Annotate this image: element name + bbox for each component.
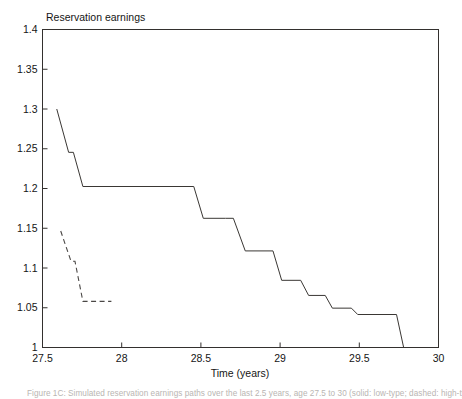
- y-tick-label: 1.4: [23, 23, 38, 35]
- y-tick-label: 1.05: [17, 301, 38, 313]
- y-tick-label: 1.1: [23, 262, 38, 274]
- x-tick-label: 29: [274, 352, 286, 364]
- page-title: Reservation earnings: [46, 11, 145, 23]
- x-tick-label: 30: [433, 352, 445, 364]
- x-tick-label: 27.5: [32, 352, 53, 364]
- figure-caption-band: Figure 1C: Simulated reservation earning…: [0, 389, 462, 399]
- chart-background: [0, 0, 462, 399]
- reservation-earnings-chart: Reservation earnings 11.051.11.151.21.25…: [0, 0, 462, 399]
- x-tick-label: 28: [116, 352, 128, 364]
- y-tick-label: 1.25: [17, 142, 38, 154]
- x-axis-title: Time (years): [211, 367, 270, 379]
- y-tick-label: 1.3: [23, 103, 38, 115]
- y-tick-label: 1.2: [23, 182, 38, 194]
- x-tick-label: 29.5: [349, 352, 370, 364]
- y-tick-label: 1.15: [17, 222, 38, 234]
- figure-container: Reservation earnings 11.051.11.151.21.25…: [0, 0, 462, 399]
- x-tick-label: 28.5: [191, 352, 212, 364]
- figure-caption: Figure 1C: Simulated reservation earning…: [27, 389, 447, 399]
- y-tick-label: 1.35: [17, 63, 38, 75]
